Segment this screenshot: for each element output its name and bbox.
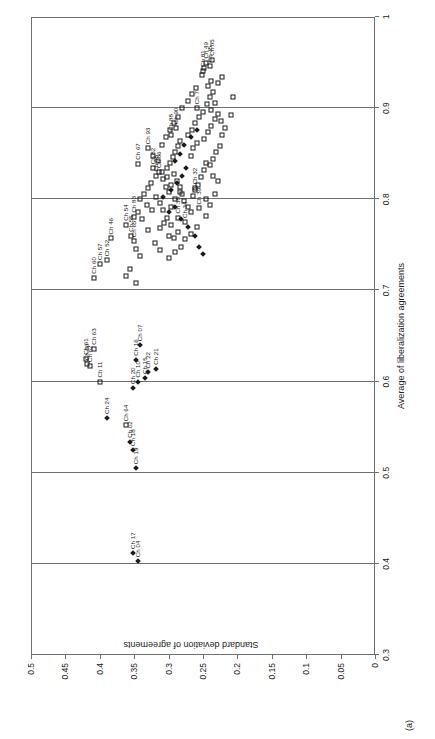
data-point-square [214, 149, 219, 154]
x-tick-label: 0.5 [381, 467, 391, 479]
y-tick-mark [341, 655, 342, 659]
x-tick-mark [375, 16, 379, 17]
data-point-square [141, 191, 146, 196]
data-point-square [166, 255, 171, 260]
data-point-square [198, 175, 203, 180]
data-point-square [195, 106, 200, 111]
data-point-square [205, 84, 210, 89]
data-point-square [159, 169, 164, 174]
data-point-square [176, 230, 181, 235]
data-point-square [166, 233, 171, 238]
data-point-square [165, 175, 170, 180]
x-tick-mark [375, 107, 379, 108]
data-point-square [205, 129, 210, 134]
data-point-square [175, 144, 180, 149]
data-point-square [194, 86, 199, 91]
data-point-square [209, 57, 214, 62]
figure-page: 0.30.40.50.60.70.80.91 00.050.10.150.20.… [0, 0, 435, 739]
data-point-square [167, 128, 172, 133]
data-point-square [183, 237, 188, 242]
gridline [32, 563, 374, 564]
data-point-square [148, 180, 153, 185]
data-point-square [188, 153, 193, 158]
data-point-square [92, 275, 97, 280]
data-point-square [191, 146, 196, 151]
data-point-square [133, 281, 138, 286]
data-point-square [150, 208, 155, 213]
data-point-square [173, 250, 178, 255]
data-point-square [173, 197, 178, 202]
data-point-square [205, 102, 210, 107]
data-point-square [135, 210, 140, 215]
data-point-square [164, 166, 169, 171]
x-tick-label: 1 [381, 15, 391, 20]
data-point-square [209, 78, 214, 83]
y-tick-label: 0.2 [232, 663, 242, 739]
x-tick-mark [375, 472, 379, 473]
data-point-label: Ch 11 [95, 362, 102, 378]
data-point-square [189, 91, 194, 96]
data-point-square [195, 224, 200, 229]
data-point-square [159, 142, 164, 147]
data-point-square [151, 153, 156, 158]
data-point-square [163, 135, 168, 140]
data-point-square [132, 239, 137, 244]
data-point-square [109, 236, 114, 241]
data-point-square [213, 117, 218, 122]
data-point-label: Ch 67 [134, 143, 141, 160]
y-tick-mark [306, 655, 307, 659]
data-point-square [177, 190, 182, 195]
y-tick-mark [237, 655, 238, 659]
y-tick-label: 0.25 [198, 663, 208, 739]
data-point-square [203, 213, 208, 218]
data-point-square [144, 202, 149, 207]
data-point-label: Ch 64 [121, 405, 128, 422]
gridline [32, 381, 374, 382]
data-point-label: Ch 46 [107, 218, 114, 235]
y-tick-mark [31, 655, 32, 659]
x-tick-label: 0.9 [381, 102, 391, 114]
data-point-square [162, 220, 167, 225]
data-point-square [155, 159, 160, 164]
data-point-square [185, 204, 190, 209]
data-point-square [185, 98, 190, 103]
data-point-square [169, 132, 174, 137]
x-axis-label: Average of liberalization agreements [396, 17, 406, 655]
data-point-square [145, 186, 150, 191]
data-point-label: Ch 93 [143, 128, 150, 145]
data-point-square [218, 118, 223, 123]
data-point-square [133, 246, 138, 251]
data-point-square [201, 109, 206, 114]
data-point-label: Ch 65 [130, 221, 137, 238]
data-point-square [137, 253, 142, 258]
data-point-label: Ch 17 [128, 532, 135, 549]
data-point-square [138, 197, 143, 202]
data-point-square [163, 184, 168, 189]
data-point-square [211, 89, 216, 94]
data-point-label: Ch 16 [131, 339, 138, 356]
data-point-label: Ch 24 [102, 398, 109, 415]
data-point-square [217, 144, 222, 149]
x-tick-label: 0.8 [381, 193, 391, 205]
data-point-square [172, 235, 177, 240]
data-point-square [202, 137, 207, 142]
data-point-square [192, 120, 197, 125]
data-point-square [104, 258, 109, 263]
y-tick-label: 0.05 [336, 663, 346, 739]
data-point-square [216, 111, 221, 116]
data-point-square [228, 113, 233, 118]
y-tick-label: 0.5 [26, 663, 36, 739]
data-point-label: Ch 21 [152, 348, 159, 365]
data-point-square [231, 95, 236, 100]
data-point-square [209, 107, 214, 112]
data-point-square [202, 66, 207, 71]
data-point-square [172, 120, 177, 125]
y-tick-mark [65, 655, 66, 659]
data-point-square [196, 182, 201, 187]
data-point-square [158, 200, 163, 205]
data-point-square [172, 171, 177, 176]
y-tick-mark [375, 655, 376, 659]
data-point-square [207, 202, 212, 207]
data-point-square [140, 217, 145, 222]
panel-label: (a) [404, 720, 414, 731]
